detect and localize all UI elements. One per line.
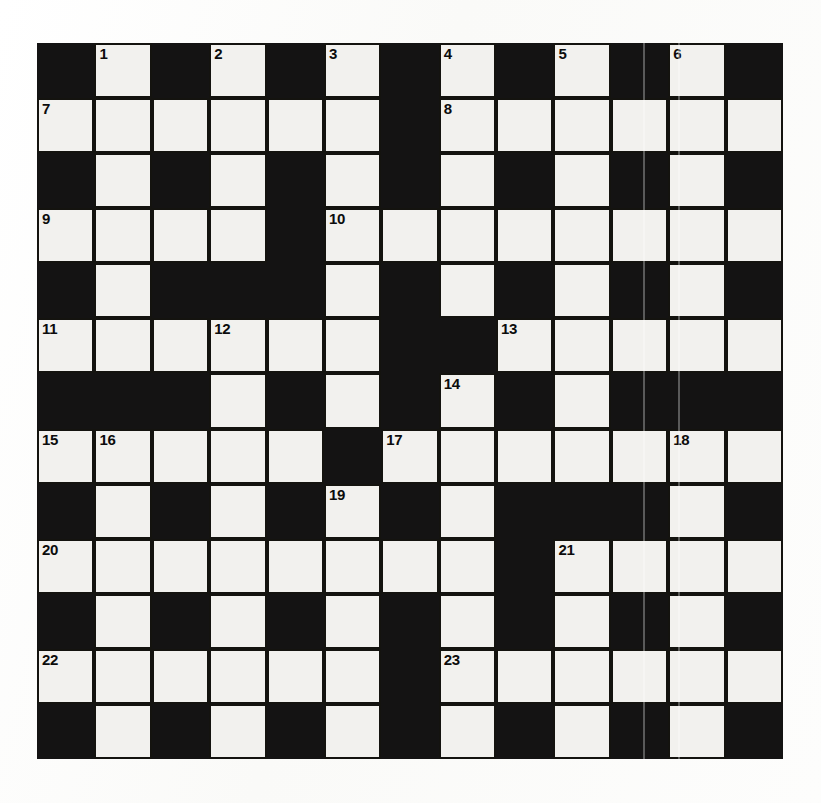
letter-cell[interactable] [726,429,783,484]
letter-cell[interactable] [439,704,496,759]
letter-cell[interactable] [267,318,324,373]
letter-cell[interactable] [726,208,783,263]
letter-cell[interactable] [324,318,381,373]
letter-cell[interactable]: 17 [381,429,438,484]
letter-cell[interactable] [152,539,209,594]
letter-cell[interactable]: 19 [324,484,381,539]
letter-cell[interactable]: 20 [37,539,94,594]
letter-cell[interactable] [668,263,725,318]
letter-cell[interactable]: 18 [668,429,725,484]
letter-cell[interactable]: 21 [553,539,610,594]
letter-cell[interactable] [324,539,381,594]
letter-cell[interactable] [209,484,266,539]
letter-cell[interactable] [324,98,381,153]
letter-cell[interactable] [726,649,783,704]
letter-cell[interactable] [496,98,553,153]
letter-cell[interactable] [381,539,438,594]
letter-cell[interactable] [668,153,725,208]
letter-cell[interactable] [152,98,209,153]
letter-cell[interactable]: 8 [439,98,496,153]
letter-cell[interactable] [553,208,610,263]
letter-cell[interactable] [94,594,151,649]
letter-cell[interactable] [611,318,668,373]
letter-cell[interactable] [553,98,610,153]
letter-cell[interactable] [94,704,151,759]
letter-cell[interactable] [439,263,496,318]
letter-cell[interactable] [553,594,610,649]
letter-cell[interactable] [94,98,151,153]
letter-cell[interactable]: 22 [37,649,94,704]
letter-cell[interactable] [267,649,324,704]
letter-cell[interactable] [324,153,381,208]
letter-cell[interactable] [94,484,151,539]
letter-cell[interactable] [496,429,553,484]
letter-cell[interactable] [668,649,725,704]
letter-cell[interactable]: 14 [439,373,496,428]
letter-cell[interactable]: 12 [209,318,266,373]
letter-cell[interactable] [726,318,783,373]
letter-cell[interactable]: 11 [37,318,94,373]
letter-cell[interactable] [553,318,610,373]
letter-cell[interactable] [668,484,725,539]
letter-cell[interactable] [668,539,725,594]
letter-cell[interactable] [439,484,496,539]
letter-cell[interactable] [209,429,266,484]
letter-cell[interactable] [94,208,151,263]
letter-cell[interactable]: 15 [37,429,94,484]
letter-cell[interactable] [668,704,725,759]
letter-cell[interactable] [553,704,610,759]
letter-cell[interactable] [94,263,151,318]
letter-cell[interactable] [611,98,668,153]
letter-cell[interactable] [152,429,209,484]
letter-cell[interactable] [381,208,438,263]
letter-cell[interactable]: 3 [324,43,381,98]
letter-cell[interactable] [324,263,381,318]
letter-cell[interactable] [152,649,209,704]
letter-cell[interactable]: 5 [553,43,610,98]
letter-cell[interactable]: 4 [439,43,496,98]
letter-cell[interactable] [726,539,783,594]
letter-cell[interactable] [209,98,266,153]
letter-cell[interactable] [324,649,381,704]
letter-cell[interactable] [611,539,668,594]
letter-cell[interactable] [152,208,209,263]
letter-cell[interactable] [324,594,381,649]
letter-cell[interactable] [209,153,266,208]
letter-cell[interactable] [267,429,324,484]
letter-cell[interactable] [553,649,610,704]
letter-cell[interactable] [668,594,725,649]
letter-cell[interactable] [324,373,381,428]
letter-cell[interactable] [611,429,668,484]
letter-cell[interactable]: 10 [324,208,381,263]
letter-cell[interactable] [267,98,324,153]
letter-cell[interactable] [726,98,783,153]
letter-cell[interactable] [553,263,610,318]
letter-cell[interactable] [439,208,496,263]
letter-cell[interactable] [668,208,725,263]
letter-cell[interactable] [496,649,553,704]
letter-cell[interactable]: 13 [496,318,553,373]
letter-cell[interactable] [553,429,610,484]
letter-cell[interactable] [553,373,610,428]
letter-cell[interactable] [209,373,266,428]
letter-cell[interactable] [668,318,725,373]
letter-cell[interactable]: 2 [209,43,266,98]
letter-cell[interactable] [209,594,266,649]
letter-cell[interactable]: 7 [37,98,94,153]
letter-cell[interactable] [553,153,610,208]
letter-cell[interactable]: 6 [668,43,725,98]
letter-cell[interactable] [209,208,266,263]
letter-cell[interactable] [439,594,496,649]
letter-cell[interactable]: 23 [439,649,496,704]
letter-cell[interactable] [439,429,496,484]
letter-cell[interactable] [668,98,725,153]
letter-cell[interactable]: 9 [37,208,94,263]
letter-cell[interactable] [611,208,668,263]
letter-cell[interactable] [324,704,381,759]
letter-cell[interactable] [209,704,266,759]
letter-cell[interactable] [94,539,151,594]
letter-cell[interactable] [496,208,553,263]
letter-cell[interactable] [439,539,496,594]
letter-cell[interactable] [611,649,668,704]
letter-cell[interactable] [439,153,496,208]
